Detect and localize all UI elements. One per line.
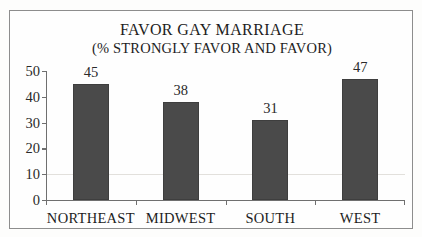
y-axis-tick (42, 148, 47, 149)
title-block: FAVOR GAY MARRIAGE (% STRONGLY FAVOR AND… (10, 20, 414, 57)
bar (252, 120, 288, 200)
x-axis-tick (315, 200, 316, 205)
bar-value-label: 38 (173, 82, 188, 99)
y-axis-tick-label: 30 (26, 114, 41, 131)
bar-value-label: 31 (263, 100, 278, 117)
category-label: NORTHEAST (47, 210, 135, 227)
chart-subtitle: (% STRONGLY FAVOR AND FAVOR) (10, 39, 414, 57)
plot-area: 01020304050 45383147 NORTHEASTMIDWESTSOU… (46, 71, 405, 201)
bar (342, 79, 378, 200)
category-label: MIDWEST (146, 210, 216, 227)
y-axis-tick-label: 0 (33, 192, 40, 209)
bar (163, 102, 199, 200)
category-label: SOUTH (245, 210, 295, 227)
y-axis-tick-label: 50 (26, 63, 41, 80)
y-axis-tick-label: 20 (26, 140, 41, 157)
chart-figure: FAVOR GAY MARRIAGE (% STRONGLY FAVOR AND… (0, 0, 422, 237)
chart-frame-border: FAVOR GAY MARRIAGE (% STRONGLY FAVOR AND… (9, 10, 413, 229)
x-axis-tick (46, 200, 47, 205)
bar-value-label: 47 (353, 59, 368, 76)
x-axis-tick (404, 200, 405, 205)
x-axis-tick (226, 200, 227, 205)
y-axis-tick (42, 123, 47, 124)
y-axis-tick-label: 40 (26, 88, 41, 105)
y-axis-tick (42, 174, 47, 175)
bar-value-label: 45 (84, 64, 99, 81)
y-axis-tick (42, 71, 47, 72)
y-axis-tick-label: 10 (26, 166, 41, 183)
x-axis-tick (136, 200, 137, 205)
chart-title: FAVOR GAY MARRIAGE (10, 20, 414, 39)
category-label: WEST (340, 210, 381, 227)
bar (73, 84, 109, 200)
y-axis-tick (42, 97, 47, 98)
y-axis-line (46, 71, 47, 201)
